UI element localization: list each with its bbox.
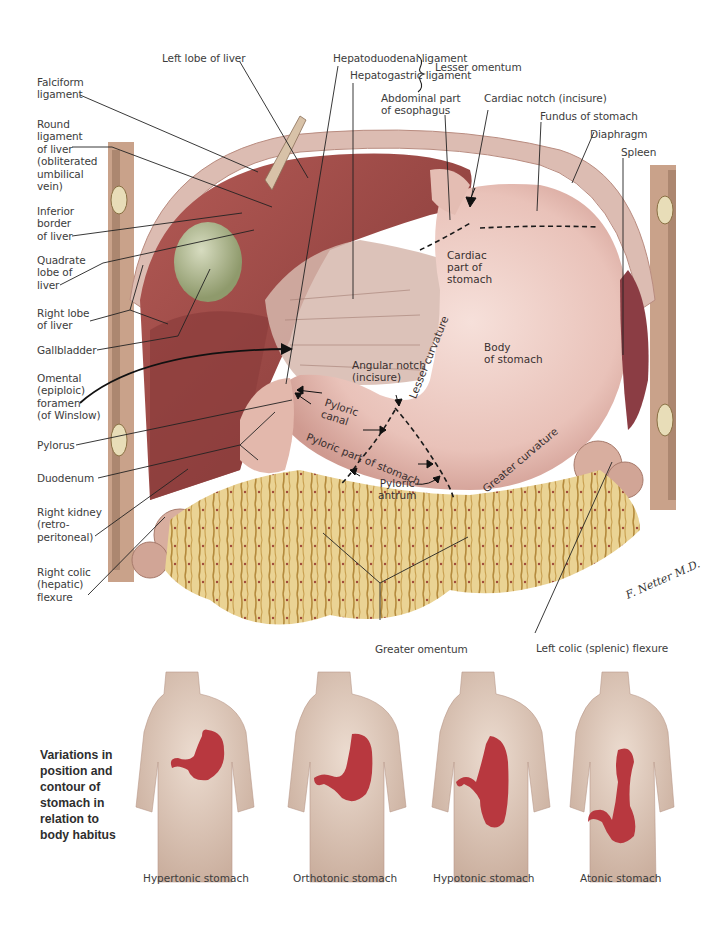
label-quadrate-lobe: Quadrate lobe of liver — [37, 254, 86, 291]
label-cardiac-part: Cardiac part of stomach — [447, 249, 492, 286]
figure-hypertonic — [136, 672, 254, 882]
caption-hypertonic: Hypertonic stomach — [143, 872, 249, 884]
label-omental-foramen: Omental (epiploic) foramen (of Winslow) — [37, 372, 101, 422]
caption-orthotonic: Orthotonic stomach — [293, 872, 397, 884]
body-habitus-figures — [136, 672, 674, 882]
label-right-colic-flexure: Right colic (hepatic) flexure — [37, 566, 91, 603]
label-pylorus: Pylorus — [37, 439, 75, 451]
label-fundus: Fundus of stomach — [540, 110, 638, 122]
figure-atonic — [570, 672, 674, 882]
label-greater-omentum: Greater omentum — [375, 643, 468, 655]
label-falciform-ligament: Falciform ligament — [37, 76, 84, 101]
label-diaphragm: Diaphragm — [590, 128, 648, 140]
label-pyloric-antrum: Pyloric antrum — [378, 477, 416, 501]
figure-hypotonic — [432, 672, 550, 882]
label-left-colic-flexure: Left colic (splenic) flexure — [536, 642, 668, 654]
label-body-of-stomach: Body of stomach — [484, 341, 543, 365]
gallbladder — [174, 222, 242, 302]
figure-orthotonic — [288, 672, 406, 882]
caption-hypotonic: Hypotonic stomach — [433, 872, 535, 884]
label-abdominal-esophagus: Abdominal part of esophagus — [381, 92, 461, 117]
label-duodenum: Duodenum — [37, 472, 94, 484]
label-gallbladder: Gallbladder — [37, 344, 96, 356]
label-round-ligament: Round ligament of liver (obliterated umb… — [37, 118, 97, 192]
label-right-lobe: Right lobe of liver — [37, 307, 89, 332]
caption-atonic: Atonic stomach — [580, 872, 661, 884]
variations-title: Variations in position and contour of st… — [40, 747, 116, 843]
label-lesser-omentum: Lesser omentum — [435, 61, 522, 73]
label-cardiac-notch: Cardiac notch (incisure) — [484, 92, 607, 104]
label-inferior-border: Inferior border of liver — [37, 205, 74, 242]
label-left-lobe-of-liver: Left lobe of liver — [162, 52, 245, 64]
anatomy-figure: Falciform ligament Round ligament of liv… — [0, 0, 713, 930]
label-right-kidney: Right kidney (retro- peritoneal) — [37, 506, 102, 543]
label-spleen: Spleen — [621, 146, 656, 158]
